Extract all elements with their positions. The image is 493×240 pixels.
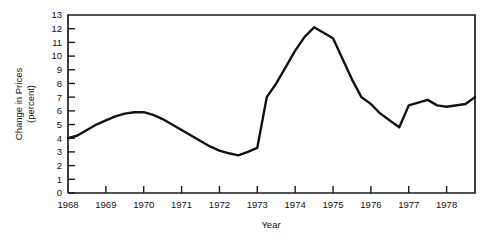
y-tick-label-5: 5 bbox=[57, 119, 62, 130]
y-tick-label-11: 11 bbox=[52, 37, 62, 48]
x-tick-label-1974: 1974 bbox=[285, 199, 306, 210]
x-tick-label-1975: 1975 bbox=[322, 199, 343, 210]
y-tick-label-1: 1 bbox=[57, 174, 62, 185]
y-tick-label-2: 2 bbox=[57, 160, 62, 171]
y-axis-title-line1: Change in Prices bbox=[13, 68, 24, 141]
x-tick-label-1978: 1978 bbox=[436, 199, 457, 210]
x-tick-label-1972: 1972 bbox=[209, 199, 230, 210]
y-tick-label-0: 0 bbox=[57, 187, 62, 198]
line-chart: 012345678910111213 196819691970197119721… bbox=[0, 0, 493, 240]
x-tick-label-1969: 1969 bbox=[95, 199, 116, 210]
y-tick-label-8: 8 bbox=[57, 78, 62, 89]
y-tick-label-9: 9 bbox=[57, 64, 62, 75]
x-tick-label-1968: 1968 bbox=[57, 199, 78, 210]
y-tick-label-6: 6 bbox=[57, 105, 62, 116]
y-tick-label-12: 12 bbox=[51, 23, 62, 34]
y-axis-title-line2: (percent) bbox=[25, 85, 36, 123]
y-tick-label-10: 10 bbox=[51, 50, 62, 61]
y-tick-label-7: 7 bbox=[57, 92, 62, 103]
x-axis-title: Year bbox=[261, 219, 280, 230]
chart-container: 012345678910111213 196819691970197119721… bbox=[0, 0, 493, 240]
x-tick-label-1970: 1970 bbox=[133, 199, 154, 210]
x-tick-label-1973: 1973 bbox=[247, 199, 268, 210]
y-tick-label-13: 13 bbox=[51, 9, 62, 20]
y-tick-label-3: 3 bbox=[57, 146, 62, 157]
y-tick-label-4: 4 bbox=[57, 133, 62, 144]
x-tick-label-1976: 1976 bbox=[360, 199, 381, 210]
x-tick-label-1977: 1977 bbox=[398, 199, 419, 210]
x-tick-label-1971: 1971 bbox=[171, 199, 192, 210]
